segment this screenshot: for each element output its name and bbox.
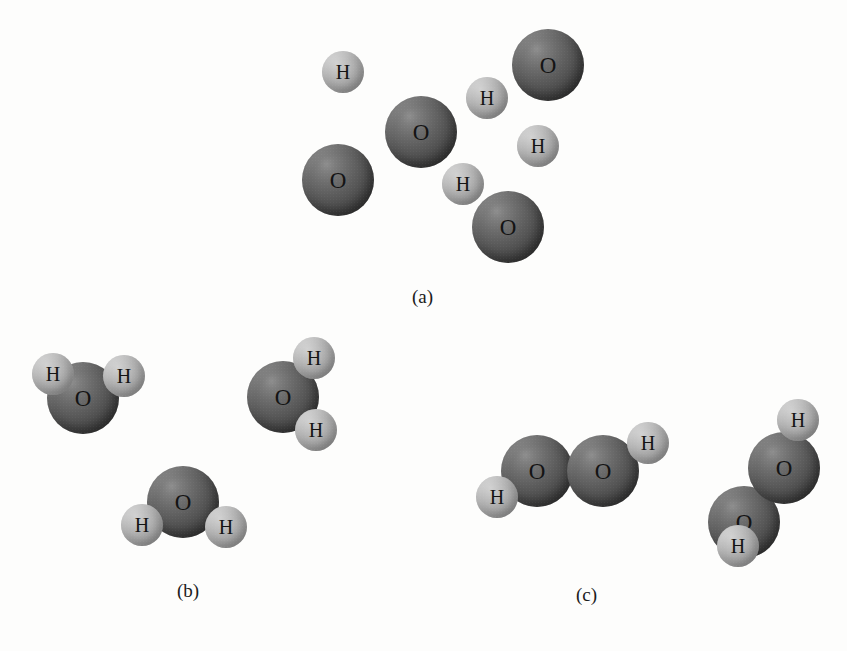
hydrogen-atom-c-4: H [717,525,759,567]
atom-symbol: H [309,420,323,440]
hydrogen-atom-b-2: H [103,355,145,397]
oxygen-atom-a-3: O [385,96,457,168]
atom-symbol: H [219,517,233,537]
atom-symbol: O [275,386,292,409]
atom-symbol: O [413,121,430,144]
panel-c-caption: (c) [576,584,597,606]
hydrogen-atom-b-8: H [205,506,247,548]
hydrogen-atom-b-4: H [293,337,335,379]
atom-symbol: O [330,169,347,192]
hydrogen-atom-a-0: H [322,51,364,93]
atom-symbol: H [307,348,321,368]
atom-symbol: O [595,460,612,483]
atom-symbol: H [731,536,745,556]
atom-symbol: O [75,387,92,410]
atom-symbol: H [791,410,805,430]
hydrogen-atom-b-5: H [295,409,337,451]
atom-symbol: H [135,515,149,535]
oxygen-atom-a-1: O [512,29,584,101]
hydrogen-atom-a-6: H [442,163,484,205]
hydrogen-atom-c-7: H [777,399,819,441]
atom-symbol: H [456,174,470,194]
atom-symbol: H [490,487,504,507]
atom-symbol: H [531,136,545,156]
atom-symbol: O [500,216,517,239]
oxygen-atom-a-5: O [302,144,374,216]
oxygen-atom-c-6: O [748,432,820,504]
atom-symbol: O [529,460,546,483]
atom-symbol: H [117,366,131,386]
hydrogen-atom-a-2: H [466,77,508,119]
molecular-models-figure: OOOOHHHH(a)OOOHHHHHH(b)OOOOHHHH(c) [0,0,847,651]
hydrogen-atom-c-3: H [627,422,669,464]
atom-symbol: O [540,54,557,77]
hydrogen-atom-a-4: H [517,125,559,167]
hydrogen-atom-c-0: H [476,476,518,518]
atom-symbol: O [776,457,793,480]
atom-symbol: O [175,491,192,514]
atom-symbol: H [336,62,350,82]
atom-symbol: H [480,88,494,108]
atom-symbol: H [46,364,60,384]
atom-symbol: H [641,433,655,453]
hydrogen-atom-b-1: H [32,353,74,395]
oxygen-atom-a-7: O [472,191,544,263]
hydrogen-atom-b-7: H [121,504,163,546]
